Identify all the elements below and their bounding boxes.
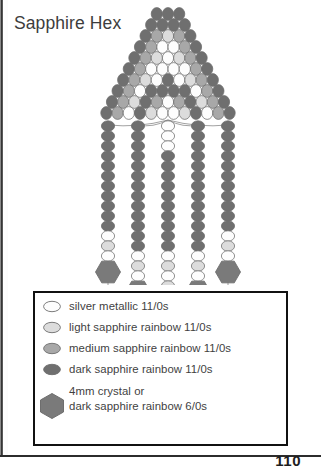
fringe-strand-1	[96, 121, 121, 285]
legend-panel: silver metallic 11/0s light sapphire rai…	[33, 291, 288, 446]
legend-item-label: dark sapphire rainbow 11/0s	[69, 362, 213, 377]
fringe-strand-5	[216, 121, 241, 285]
legend-item-light-sapphire: light sapphire rainbow 11/0s	[35, 320, 286, 335]
seed-bead-medium-sapphire-icon	[35, 342, 69, 355]
fringe-strand-4	[186, 121, 211, 285]
legend-item-silver-metallic: silver metallic 11/0s	[35, 299, 286, 314]
seed-bead-dark-sapphire-icon	[35, 363, 69, 376]
legend-item-label: 4mm crystal or dark sapphire rainbow 6/0…	[69, 384, 207, 413]
hex-crystal-bead	[216, 261, 241, 283]
hex-crystal-bead	[96, 261, 121, 283]
legend-item-label: light sapphire rainbow 11/0s	[69, 320, 211, 335]
legend-item-label: silver metallic 11/0s	[69, 299, 169, 314]
legend-item-medium-sapphire: medium sapphire rainbow 11/0s	[35, 341, 286, 356]
legend-item-label: medium sapphire rainbow 11/0s	[69, 341, 231, 356]
legend-item-dark-sapphire: dark sapphire rainbow 11/0s	[35, 362, 286, 377]
beadwork-illustration	[8, 0, 313, 285]
hex-crystal-bead	[186, 281, 211, 285]
hex-crystal-bead-icon	[35, 384, 69, 420]
hex-crystal-bead	[126, 281, 151, 285]
seed-bead-light-sapphire-icon	[35, 321, 69, 334]
scan-page-bottom-gutter	[0, 457, 321, 465]
fringe-strand-2	[126, 121, 151, 285]
legend-item-hex-crystal: 4mm crystal or dark sapphire rainbow 6/0…	[35, 384, 286, 420]
page-number: 110	[275, 452, 301, 469]
fringe-strand-3	[156, 121, 181, 285]
seed-bead-silver-metallic-icon	[35, 300, 69, 313]
beadwork-diagram	[8, 0, 313, 285]
bead-body	[101, 8, 235, 120]
